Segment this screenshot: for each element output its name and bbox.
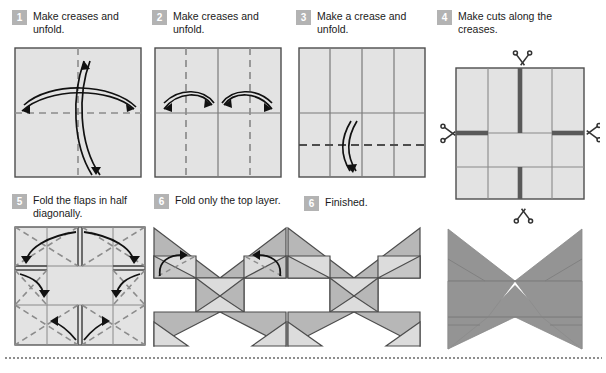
step-text-7: Finished.: [325, 196, 368, 209]
step-badge-5: 5: [12, 194, 27, 209]
step-heading-5: 5 Fold the flaps in half diagonally.: [12, 194, 151, 219]
step-diagram-2: [154, 47, 282, 178]
step-text-6: Fold only the top layer.: [175, 194, 281, 207]
scissors-icon-bottom: [514, 209, 532, 223]
step-diagram-6: [152, 226, 288, 348]
step-badge-7: 6: [304, 196, 319, 211]
step-text-3: Make a crease and unfold.: [317, 10, 435, 35]
step-heading-2: 2 Make creases and unfold.: [152, 10, 291, 35]
step-diagram-3: [298, 47, 426, 178]
step-heading-7: 6 Finished.: [304, 196, 368, 211]
scissors-icon-left: [441, 124, 455, 142]
step-text-2: Make creases and unfold.: [173, 10, 291, 35]
step-badge-4: 4: [437, 10, 452, 25]
scissors-icon-top: [513, 51, 531, 65]
step-diagram-7: [286, 226, 422, 348]
step-diagram-4: [440, 50, 600, 225]
scissors-icon-right: [587, 123, 600, 141]
step-text-1: Make creases and unfold.: [33, 10, 151, 35]
step-diagram-1: [14, 47, 142, 178]
instruction-sheet: 1 Make creases and unfold. 2 Make crease…: [0, 0, 606, 373]
step-badge-3: 3: [296, 10, 311, 25]
step-heading-1: 1 Make creases and unfold.: [12, 10, 151, 35]
step-heading-6: 6 Fold only the top layer.: [154, 194, 281, 209]
step-badge-2: 2: [152, 10, 167, 25]
step-text-4: Make cuts along the creases.: [458, 10, 576, 35]
step-text-5: Fold the flaps in half diagonally.: [33, 194, 151, 219]
step-badge-6: 6: [154, 194, 169, 209]
footer-divider: [4, 357, 602, 359]
finished-butterfly-photo: [440, 225, 590, 353]
step-badge-1: 1: [12, 10, 27, 25]
step-heading-4: 4 Make cuts along the creases.: [437, 10, 576, 35]
step-diagram-5: [14, 226, 146, 346]
step-heading-3: 3 Make a crease and unfold.: [296, 10, 435, 35]
